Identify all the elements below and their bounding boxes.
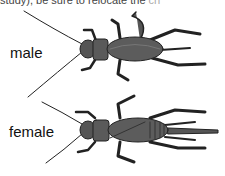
- male-cricket-illustration: [24, 11, 205, 97]
- female-cricket-illustration: [42, 96, 218, 163]
- cricket-diagram: [0, 0, 225, 176]
